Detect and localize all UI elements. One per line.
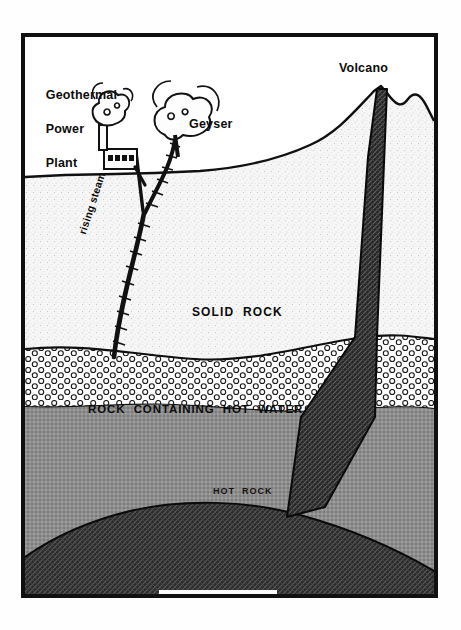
feature-label-volcano: Volcano bbox=[339, 61, 388, 76]
diagram-stage: SOLID ROCK ROCK CONTAINING HOT WATER HOT… bbox=[0, 0, 461, 630]
layer-label-solid-rock: SOLID ROCK bbox=[192, 305, 283, 319]
power-plant-label-line2: Power bbox=[46, 122, 85, 136]
feature-label-geyser: Geyser bbox=[189, 117, 233, 132]
layer-label-hot-rock: HOT ROCK bbox=[213, 486, 273, 497]
layer-label-melted-rock: MELTED ROCK bbox=[159, 590, 277, 598]
power-plant-label-line3: Plant bbox=[46, 156, 78, 170]
layer-label-hot-water-rock: ROCK CONTAINING HOT WATER bbox=[88, 403, 303, 417]
feature-label-power-plant: Geothermal Power Plant bbox=[31, 70, 117, 189]
power-plant-label-line1: Geothermal bbox=[46, 88, 117, 102]
